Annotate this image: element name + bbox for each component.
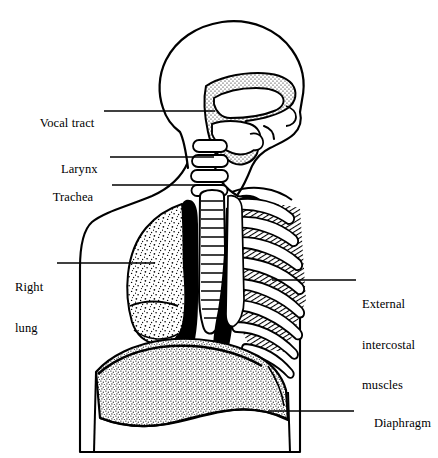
label-diaphragm-text: Diaphragm	[374, 416, 431, 430]
label-trachea-text: Trachea	[53, 190, 94, 204]
label-larynx-text: Larynx	[61, 162, 98, 176]
anatomical-diagram-figure: Vocal tract Larynx Trachea Right lung Ex…	[0, 0, 438, 458]
label-external-line3: muscles	[362, 379, 415, 393]
label-right-lung-line1: Right	[15, 281, 43, 295]
label-right-lung-line2: lung	[15, 322, 43, 336]
label-external-line1: External	[362, 298, 415, 312]
label-right-lung: Right lung	[15, 254, 43, 362]
label-external-intercostal-muscles: External intercostal muscles	[362, 271, 415, 420]
label-diaphragm: Diaphragm	[361, 403, 431, 444]
sternum	[226, 196, 244, 327]
label-trachea: Trachea	[40, 177, 93, 218]
label-external-line2: intercostal	[362, 339, 415, 353]
label-vocal-tract-text: Vocal tract	[40, 116, 95, 130]
label-vocal-tract: Vocal tract	[27, 103, 94, 144]
